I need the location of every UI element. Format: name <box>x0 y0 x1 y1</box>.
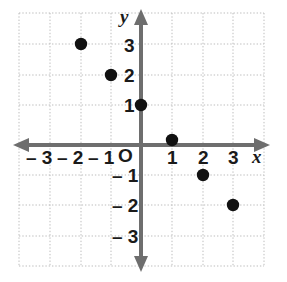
origin-label: O <box>118 146 133 165</box>
y-tick-label-pos3: 3 <box>124 36 135 55</box>
x-tick-label-neg3: – 3 <box>26 148 52 167</box>
x-axis-label: x <box>252 147 262 166</box>
y-tick-label-neg1: – 1 <box>112 166 138 185</box>
coordinate-plane-canvas <box>0 0 287 282</box>
data-point <box>227 199 239 211</box>
data-point <box>105 69 117 81</box>
axis-lines <box>24 18 258 262</box>
y-axis-up-arrow <box>134 9 148 25</box>
y-tick-label-neg3: – 3 <box>112 227 138 246</box>
x-tick-label-pos1: 1 <box>167 148 178 167</box>
y-axis-label: y <box>120 7 128 26</box>
data-point <box>197 169 209 181</box>
coordinate-plane-figure: – 3 – 2 – 1 1 2 3 3 2 1 – 1 – 2 – 3 O x … <box>0 0 287 282</box>
x-tick-label-neg1: – 1 <box>88 148 114 167</box>
y-tick-label-pos2: 2 <box>124 66 135 85</box>
y-tick-label-pos1: 1 <box>124 96 135 115</box>
data-point <box>166 134 178 146</box>
data-point <box>135 99 147 111</box>
x-tick-label-pos2: 2 <box>198 148 209 167</box>
x-tick-label-pos3: 3 <box>228 148 239 167</box>
y-axis-down-arrow <box>134 256 148 272</box>
x-tick-label-neg2: – 2 <box>57 148 83 167</box>
data-points <box>75 38 239 211</box>
data-point <box>75 38 87 50</box>
y-tick-label-neg2: – 2 <box>112 196 138 215</box>
